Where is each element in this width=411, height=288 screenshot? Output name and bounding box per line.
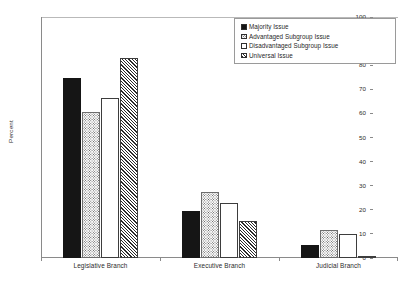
legend-label: Advantaged Subgroup Issue bbox=[249, 33, 330, 40]
bar bbox=[358, 256, 376, 258]
legend-item: Advantaged Subgroup Issue bbox=[241, 32, 390, 42]
legend-swatch-icon bbox=[241, 53, 247, 59]
legend-item: Universal Issue bbox=[241, 51, 390, 61]
bar bbox=[301, 245, 319, 258]
legend-item: Disadvantaged Subgroup Issue bbox=[241, 41, 390, 51]
x-axis-label: Executive Branch bbox=[170, 262, 270, 269]
y-axis: Percent bbox=[0, 0, 41, 288]
legend-label: Majority Issue bbox=[249, 23, 289, 30]
bar bbox=[101, 98, 119, 258]
legend-swatch-icon bbox=[241, 24, 247, 30]
legend-swatch-icon bbox=[241, 43, 247, 49]
bar bbox=[82, 112, 100, 258]
legend-item: Majority Issue bbox=[241, 22, 390, 32]
legend-label: Disadvantaged Subgroup Issue bbox=[249, 42, 338, 49]
bar-chart: Percent 0102030405060708090100 Legislati… bbox=[0, 0, 411, 288]
x-tick-mark bbox=[41, 258, 42, 261]
x-axis-label: Legislative Branch bbox=[51, 262, 151, 269]
x-tick-mark bbox=[160, 258, 161, 261]
bar bbox=[239, 221, 257, 258]
bar bbox=[120, 58, 138, 258]
bar bbox=[63, 78, 81, 258]
bar bbox=[320, 230, 338, 258]
legend-swatch-icon bbox=[241, 34, 247, 40]
legend: Majority IssueAdvantaged Subgroup IssueD… bbox=[234, 18, 396, 64]
x-axis-label: Judicial Branch bbox=[289, 262, 389, 269]
caption-strip bbox=[0, 281, 411, 288]
x-axis-labels: Legislative BranchExecutive BranchJudici… bbox=[41, 262, 398, 276]
x-tick-mark bbox=[279, 258, 280, 261]
legend-label: Universal Issue bbox=[249, 52, 293, 59]
bar bbox=[339, 234, 357, 258]
bar bbox=[220, 203, 238, 258]
bar bbox=[201, 192, 219, 258]
y-axis-title: Percent bbox=[7, 107, 14, 157]
bar bbox=[182, 211, 200, 258]
x-tick-mark bbox=[397, 258, 398, 261]
